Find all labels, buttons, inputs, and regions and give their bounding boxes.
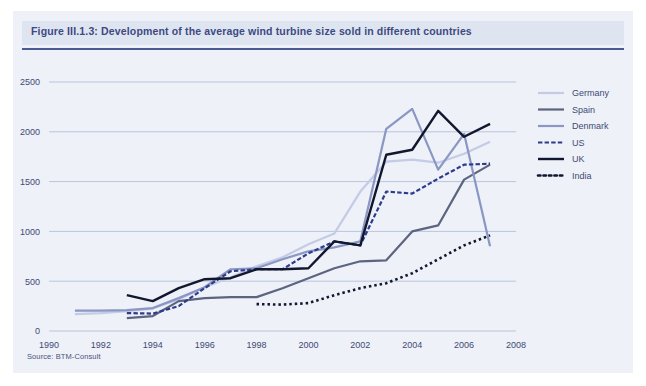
x-axis-tick-1994: 1994 xyxy=(143,340,163,350)
legend-label-spain: Spain xyxy=(572,105,595,115)
series-line-spain xyxy=(127,165,490,318)
figure-container: Figure III.1.3: Development of the avera… xyxy=(0,0,646,386)
y-axis-tick-1000: 1000 xyxy=(20,227,40,237)
x-axis-tick-1990: 1990 xyxy=(39,340,59,350)
chart-plot-area: 0500100015002000250019901992199419961998… xyxy=(0,0,646,386)
y-axis-tick-2000: 2000 xyxy=(20,127,40,137)
series-line-us xyxy=(127,164,490,314)
series-line-denmark xyxy=(75,109,490,311)
legend-label-india: India xyxy=(572,171,592,181)
legend-label-uk: UK xyxy=(572,154,585,164)
legend-label-us: US xyxy=(572,138,585,148)
legend-label-germany: Germany xyxy=(572,88,610,98)
x-axis-tick-1996: 1996 xyxy=(195,340,215,350)
x-axis-tick-2002: 2002 xyxy=(350,340,370,350)
x-axis-tick-2004: 2004 xyxy=(402,340,422,350)
line-chart: 0500100015002000250019901992199419961998… xyxy=(0,0,646,386)
y-axis-tick-500: 500 xyxy=(25,277,40,287)
y-axis-tick-2500: 2500 xyxy=(20,77,40,87)
x-axis-tick-2006: 2006 xyxy=(454,340,474,350)
x-axis-tick-2008: 2008 xyxy=(506,340,526,350)
series-line-uk xyxy=(127,111,490,301)
y-axis-tick-0: 0 xyxy=(35,326,40,336)
legend-label-denmark: Denmark xyxy=(572,121,609,131)
x-axis-tick-2000: 2000 xyxy=(298,340,318,350)
y-axis-tick-1500: 1500 xyxy=(20,177,40,187)
x-axis-tick-1998: 1998 xyxy=(247,340,267,350)
x-axis-tick-1992: 1992 xyxy=(91,340,111,350)
